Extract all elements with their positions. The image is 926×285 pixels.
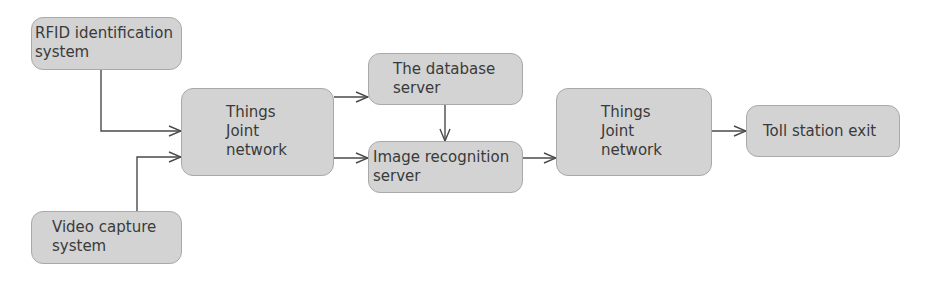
node-toll-station-exit: Toll station exit xyxy=(746,105,900,157)
node-label: Toll station exit xyxy=(763,122,876,141)
node-video-capture-system: Video capture system xyxy=(31,211,182,264)
node-label: Things Joint network xyxy=(226,103,287,160)
node-label: Things Joint network xyxy=(601,103,662,160)
edge-rfid-to-iot1 xyxy=(101,70,181,131)
node-things-joint-network-2: Things Joint network xyxy=(556,88,712,176)
node-label: The database server xyxy=(393,60,495,98)
node-database-server: The database server xyxy=(368,53,523,105)
node-image-recognition-server: Image recognition server xyxy=(368,141,523,193)
node-label: Image recognition server xyxy=(373,148,509,186)
node-label: RFID identification system xyxy=(35,24,173,62)
node-rfid-identification-system: RFID identification system xyxy=(31,17,182,70)
node-things-joint-network-1: Things Joint network xyxy=(181,88,334,176)
node-label: Video capture system xyxy=(52,218,156,256)
edge-video-to-iot1 xyxy=(137,157,181,211)
